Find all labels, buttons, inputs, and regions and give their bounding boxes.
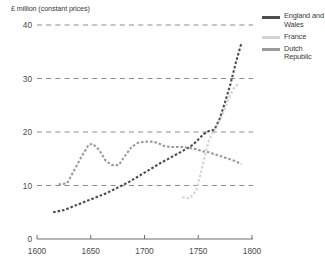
legend-swatch-france [262, 36, 280, 39]
legend-label-france: France [284, 33, 306, 42]
legend-label-dutch-republic: Dutch Republic [284, 45, 325, 62]
x-axis-line [37, 235, 253, 239]
svg-text:40: 40 [23, 20, 33, 30]
svg-text:0: 0 [27, 234, 32, 244]
legend: England and Wales France Dutch Republic [262, 12, 325, 65]
svg-text:1650: 1650 [82, 246, 101, 256]
y-axis-tick-labels: 010203040 [23, 20, 33, 244]
x-axis-tick-labels: 16001650170017501800 [28, 246, 262, 256]
legend-swatch-dutch-republic [262, 48, 280, 51]
legend-item-dutch-republic: Dutch Republic [262, 45, 325, 62]
svg-text:20: 20 [23, 127, 33, 137]
svg-text:30: 30 [23, 74, 33, 84]
chart-container: £ million (constant prices) 010203040 16… [0, 0, 325, 280]
data-series-group [53, 44, 241, 213]
svg-text:1600: 1600 [28, 246, 47, 256]
svg-text:1800: 1800 [243, 246, 262, 256]
legend-swatch-england-and-wales [262, 16, 280, 19]
legend-label-england-and-wales: England and Wales [284, 12, 325, 29]
gridlines-group [37, 25, 253, 186]
legend-item-france: France [262, 33, 325, 42]
svg-text:1700: 1700 [135, 246, 154, 256]
svg-text:10: 10 [23, 181, 33, 191]
legend-item-england-and-wales: England and Wales [262, 12, 325, 29]
svg-text:1750: 1750 [189, 246, 208, 256]
